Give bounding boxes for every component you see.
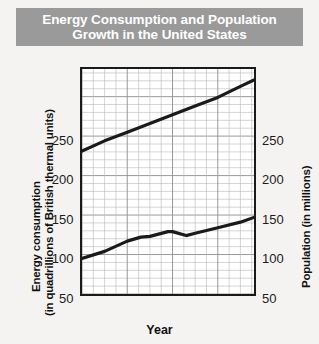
y-axis-right-tick-150: 150: [262, 212, 296, 227]
data-lines: [82, 69, 254, 294]
y-axis-right-tick-50: 50: [262, 291, 296, 306]
x-axis-label: Year: [0, 323, 319, 337]
chart-body: 50100150200250 50100150200250 1960197019…: [0, 46, 319, 344]
y-axis-right-tick-250: 250: [262, 133, 296, 148]
y-axis-right-label: Population (in millions): [300, 166, 312, 288]
y-axis-left-label-line2: (in quadrillions of British thermal unit…: [43, 109, 55, 316]
y-axis-right-tick-200: 200: [262, 172, 296, 187]
plot-area: [80, 67, 256, 296]
chart-title-banner: Energy Consumption and Population Growth…: [16, 8, 303, 46]
chart-figure: Energy Consumption and Population Growth…: [0, 0, 319, 344]
y-axis-right-tick-100: 100: [262, 251, 296, 266]
data-series-line: [82, 217, 254, 258]
data-series-line: [82, 80, 254, 151]
chart-title: Energy Consumption and Population Growth…: [42, 12, 276, 42]
y-axis-left-label-line1: Energy consumption: [30, 181, 42, 292]
